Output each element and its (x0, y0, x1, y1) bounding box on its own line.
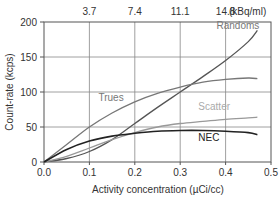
y-tick-label: 100 (20, 87, 37, 98)
top-tick-label: 11.1 (171, 6, 190, 17)
secondary-x-axis-unit: (kBq/ml) (229, 6, 266, 17)
x-tick-label: 0.5 (264, 167, 278, 178)
x-tick-label: 0.4 (219, 167, 233, 178)
curve-label-nec: NEC (198, 132, 219, 143)
y-tick-label: 50 (26, 122, 38, 133)
x-ticks: 0.00.10.20.30.40.5 (37, 162, 278, 178)
x-tick-label: 0.1 (82, 167, 96, 178)
curve-label-scatter: Scatter (198, 101, 230, 112)
x-tick-label: 0.0 (37, 167, 51, 178)
grid (44, 22, 271, 162)
y-axis-label: Count-rate (kcps) (4, 53, 15, 130)
curve-label-randoms: Randoms (217, 20, 260, 31)
y-tick-label: 200 (20, 17, 37, 28)
y-ticks: 050100150200 (20, 17, 44, 168)
x-axis-label: Activity concentration (µCi/cc) (92, 184, 224, 195)
x-tick-label: 0.3 (173, 167, 187, 178)
y-tick-label: 150 (20, 52, 37, 63)
top-ticks: 3.77.411.114.8 (82, 6, 235, 17)
top-tick-label: 7.4 (128, 6, 142, 17)
x-tick-label: 0.2 (128, 167, 142, 178)
y-tick-label: 0 (31, 157, 37, 168)
curve-label-trues: Trues (98, 92, 123, 103)
top-tick-label: 3.7 (82, 6, 96, 17)
chart: 0.00.10.20.30.40.5 050100150200 3.77.411… (0, 0, 280, 201)
curve-labels: RandomsTruesScatterNEC (98, 20, 259, 143)
